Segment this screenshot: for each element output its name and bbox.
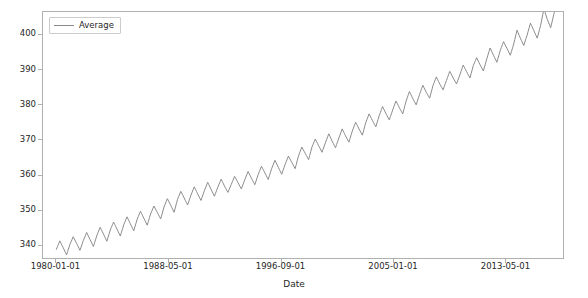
- x-tick-mark: [393, 259, 394, 263]
- data-line-svg: [43, 12, 563, 258]
- x-axis-title: Date: [0, 279, 588, 289]
- legend-line-swatch-average: [54, 25, 74, 26]
- x-tick-mark: [505, 259, 506, 263]
- x-tick-label: 2005-01-01: [368, 262, 417, 271]
- x-tick-mark: [281, 259, 282, 263]
- y-tick-label: 400: [20, 29, 36, 38]
- x-tick-label: 2013-05-01: [481, 262, 530, 271]
- y-tick-mark: [38, 69, 42, 70]
- x-tick-label: 1996-09-01: [256, 262, 305, 271]
- y-tick-mark: [38, 104, 42, 105]
- chart-legend: Average: [49, 17, 121, 34]
- y-tick-label: 360: [20, 170, 36, 179]
- y-tick-label: 340: [20, 240, 36, 249]
- y-tick-mark: [38, 34, 42, 35]
- chart-figure: 340350360370380390400 Average 1980-01-01…: [0, 0, 588, 298]
- y-tick-label: 390: [20, 65, 36, 74]
- plot-area: [42, 11, 564, 259]
- y-tick-mark: [38, 175, 42, 176]
- y-tick-mark: [38, 210, 42, 211]
- x-tick-label: 1980-01-01: [31, 262, 80, 271]
- x-tick-mark: [168, 259, 169, 263]
- y-tick-label: 350: [20, 205, 36, 214]
- y-tick-mark: [38, 139, 42, 140]
- legend-label-average: Average: [79, 21, 114, 30]
- x-tick-label: 1988-05-01: [143, 262, 192, 271]
- y-tick-label: 370: [20, 135, 36, 144]
- x-tick-mark: [55, 259, 56, 263]
- x-axis-tick-labels: 1980-01-011988-05-011996-09-012005-01-01…: [0, 262, 588, 278]
- y-tick-mark: [38, 245, 42, 246]
- y-axis-tick-labels: 340350360370380390400: [0, 0, 36, 298]
- series-average-line: [56, 12, 560, 255]
- y-tick-label: 380: [20, 100, 36, 109]
